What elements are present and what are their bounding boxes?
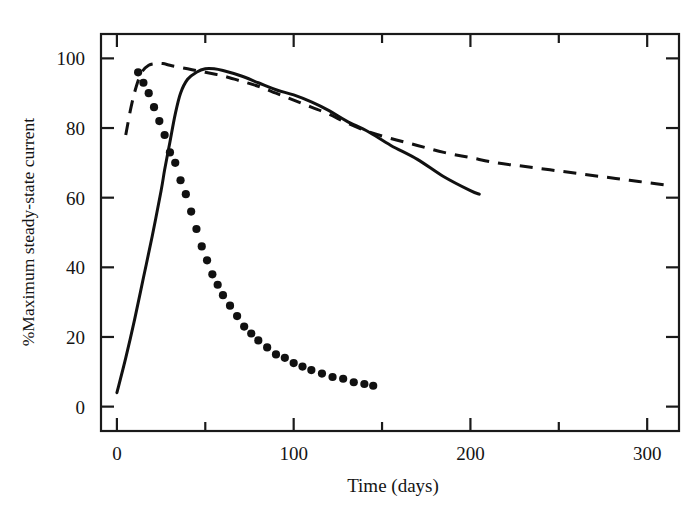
data-point [182,190,190,198]
x-axis-title: Time (days) [347,475,439,497]
y-tick-label: 60 [66,188,85,209]
y-tick-label: 80 [66,118,85,139]
data-point [307,366,315,374]
data-point [290,359,298,367]
data-point [272,350,280,358]
data-point [166,148,174,156]
data-point [161,131,169,139]
data-point [281,354,289,362]
x-tick-label: 100 [279,443,308,464]
data-point [226,302,234,310]
x-tick-label: 300 [633,443,662,464]
x-tick-label: 0 [112,443,122,464]
data-point [150,103,158,111]
data-point [219,291,227,299]
data-point [155,117,163,125]
y-axis-title: %Maximum steady-state current [18,118,38,347]
chart-background [0,0,694,520]
line-chart: 0100200300 020406080100 Time (days) %Max… [0,0,694,520]
y-tick-label: 20 [66,327,85,348]
y-tick-label: 40 [66,257,85,278]
data-point [208,270,216,278]
data-point [369,382,377,390]
data-point [176,176,184,184]
data-point [139,79,147,87]
x-tick-label: 200 [456,443,485,464]
data-point [145,89,153,97]
data-point [187,208,195,216]
data-point [339,375,347,383]
data-point [198,242,206,250]
data-point [214,281,222,289]
y-tick-label: 0 [76,397,86,418]
data-point [254,336,262,344]
data-point [350,378,358,386]
data-point [203,256,211,264]
data-point [360,380,368,388]
data-point [192,225,200,233]
data-point [240,322,248,330]
data-point [298,362,306,370]
data-point [233,312,241,320]
y-tick-label: 100 [57,48,86,69]
data-point [171,159,179,167]
data-point [247,329,255,337]
figure-container: 0100200300 020406080100 Time (days) %Max… [0,0,694,520]
data-point [318,369,326,377]
data-point [263,343,271,351]
data-point [134,68,142,76]
data-point [328,373,336,381]
